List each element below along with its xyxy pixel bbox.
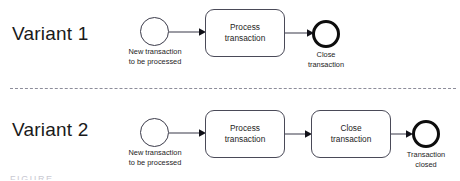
start-event-circle[interactable] bbox=[140, 118, 169, 147]
end-event-circle[interactable] bbox=[412, 120, 440, 148]
task-label: Process transaction bbox=[221, 123, 270, 145]
sequence-flow-arrow bbox=[169, 27, 207, 37]
task-process-transaction[interactable]: Process transaction bbox=[205, 9, 285, 57]
start-event-caption: New transaction to be processed bbox=[118, 47, 192, 67]
start-event-caption: New transaction to be processed bbox=[118, 148, 192, 168]
end-event-caption: Transaction closed bbox=[392, 150, 460, 170]
task-process-transaction[interactable]: Process transaction bbox=[205, 110, 285, 158]
sequence-flow-arrow bbox=[169, 128, 207, 138]
variant-divider bbox=[10, 88, 456, 89]
end-event-circle[interactable] bbox=[312, 20, 340, 48]
sequence-flow-arrow bbox=[285, 28, 315, 38]
task-close-transaction[interactable]: Close transaction bbox=[311, 110, 391, 158]
figure-caption-cutoff: FIGURE bbox=[10, 174, 54, 180]
variant-2-title: Variant 2 bbox=[12, 120, 88, 139]
task-label: Process transaction bbox=[221, 22, 270, 44]
task-label: Close transaction bbox=[327, 123, 376, 145]
start-event-circle[interactable] bbox=[140, 17, 169, 46]
bpmn-variants-figure: Variant 1 New transaction to be processe… bbox=[0, 0, 460, 181]
sequence-flow-arrow bbox=[285, 129, 313, 139]
sequence-flow-arrow bbox=[391, 129, 414, 139]
variant-1-title: Variant 1 bbox=[12, 24, 88, 43]
end-event-caption: Close transaction bbox=[292, 50, 360, 70]
